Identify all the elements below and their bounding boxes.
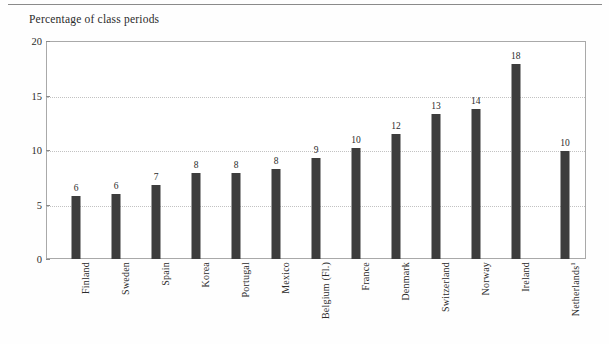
bar xyxy=(232,173,241,259)
bar xyxy=(471,109,480,259)
bar-value-label: 8 xyxy=(194,160,199,170)
y-tick-mark-15 xyxy=(46,96,50,97)
bar-value-label: 18 xyxy=(511,51,521,61)
x-axis-label: Sweden xyxy=(120,262,131,295)
x-axis-label: Switzerland xyxy=(440,262,451,312)
x-axis-label: Netherlands1 xyxy=(569,262,581,316)
bar-value-label: 9 xyxy=(314,145,319,155)
bar xyxy=(112,194,121,259)
bar-value-label: 13 xyxy=(431,101,441,111)
y-tick-mark-5 xyxy=(46,205,50,206)
bar-value-label: 6 xyxy=(114,181,119,191)
x-axis-label: Finland xyxy=(80,262,91,294)
x-axis-label: Ireland xyxy=(520,262,531,292)
bar xyxy=(152,185,161,259)
x-axis-label: Korea xyxy=(200,262,211,287)
bar xyxy=(431,114,440,259)
y-tick-label-20: 20 xyxy=(16,36,42,47)
bar-value-label: 14 xyxy=(471,96,481,106)
bar xyxy=(72,196,81,259)
x-axis-label: Spain xyxy=(160,262,171,286)
bar-value-label: 8 xyxy=(234,160,239,170)
x-axis-label: Belgium (Fl.) xyxy=(320,262,331,319)
y-tick-mark-20 xyxy=(46,41,50,42)
footnote-marker: 1 xyxy=(569,262,577,266)
bar-value-label: 8 xyxy=(274,156,279,166)
bar-value-label: 6 xyxy=(74,183,79,193)
bar xyxy=(312,158,321,259)
bar xyxy=(192,173,201,259)
y-axis-labels: 20151050 xyxy=(14,41,42,259)
y-tick-label-5: 5 xyxy=(16,199,42,210)
y-tick-label-10: 10 xyxy=(16,145,42,156)
bar xyxy=(511,64,520,259)
x-axis-labels: FinlandSwedenSpainKoreaPortugalMexicoBel… xyxy=(46,262,586,342)
y-tick-label-0: 0 xyxy=(16,254,42,265)
y-tick-label-15: 15 xyxy=(16,90,42,101)
bar-value-label: 12 xyxy=(391,121,401,131)
x-axis-label: France xyxy=(360,262,371,290)
bar xyxy=(272,169,281,259)
bars-layer: 6678889101213141810 xyxy=(46,41,586,259)
bar xyxy=(391,134,400,259)
bar-value-label: 10 xyxy=(351,135,361,145)
x-axis-label: Denmark xyxy=(400,262,411,301)
chart-title: Percentage of class periods xyxy=(29,13,159,25)
bar-value-label: 7 xyxy=(154,172,159,182)
figure-top-rule xyxy=(8,4,602,5)
x-axis-label: Mexico xyxy=(280,262,291,294)
y-tick-mark-0 xyxy=(46,259,50,260)
y-tick-mark-10 xyxy=(46,150,50,151)
x-axis-label: Norway xyxy=(480,262,491,295)
bar xyxy=(560,151,569,259)
x-axis-label: Portugal xyxy=(240,262,251,298)
bar xyxy=(351,148,360,259)
bar-value-label: 10 xyxy=(560,138,570,148)
chart-figure: Percentage of class periods 20151050 667… xyxy=(0,0,609,344)
